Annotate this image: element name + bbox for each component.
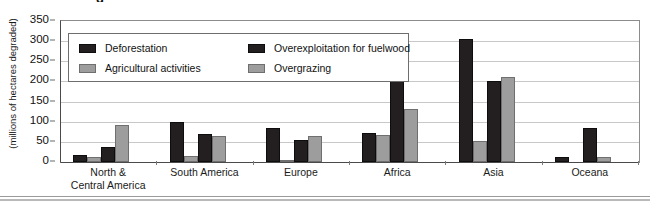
x-category-label-line: Oceana — [571, 166, 608, 179]
chart-legend: DeforestationAgricultural activitiesOver… — [68, 33, 409, 82]
legend-swatch-dark — [248, 44, 265, 53]
y-tick-label: 150 — [30, 95, 49, 107]
legend-item: Overgrazing — [248, 63, 331, 74]
x-category-label: South America — [170, 166, 238, 179]
y-tick-mark — [50, 140, 55, 141]
x-category-label-line: South America — [170, 166, 238, 179]
x-category-label: North &Central America — [71, 166, 146, 192]
legend-swatch-light — [248, 64, 265, 73]
page-rule-lower — [0, 199, 650, 201]
y-tick-label: 200 — [30, 75, 49, 87]
y-tick-label: 300 — [30, 34, 49, 46]
y-tick-label: 250 — [30, 55, 49, 67]
y-axis-ticks: 050100150200250300350 — [22, 14, 55, 161]
x-tick-mark — [638, 161, 639, 165]
legend-swatch-light — [79, 64, 96, 73]
page-rule-upper — [0, 196, 650, 197]
y-tick-label: 0 — [43, 155, 49, 167]
y-tick-mark — [50, 80, 55, 81]
x-tick-mark — [253, 161, 254, 165]
y-tick-mark — [50, 120, 55, 121]
legend-label: Overgrazing — [274, 63, 331, 74]
y-tick-mark — [50, 100, 55, 101]
x-category-label-line: Central America — [71, 179, 146, 192]
y-tick-label: 350 — [30, 14, 49, 26]
y-tick-mark — [50, 161, 55, 162]
bar-chart-figure: g (millions of hectares degraded) 050100… — [0, 0, 650, 207]
x-axis-category-labels: North &Central AmericaSouth AmericaEurop… — [60, 166, 638, 198]
y-tick-mark — [50, 60, 55, 61]
legend-item: Deforestation — [79, 43, 167, 54]
legend-label: Agricultural activities — [105, 63, 201, 74]
legend-item: Overexploitation for fuelwood — [248, 43, 410, 54]
legend-swatch-dark — [79, 44, 96, 53]
x-category-label-line: Asia — [483, 166, 503, 179]
x-tick-mark — [445, 161, 446, 165]
x-category-label: Asia — [483, 166, 503, 179]
legend-item: Agricultural activities — [79, 63, 201, 74]
legend-label: Deforestation — [105, 43, 167, 54]
x-category-label: Europe — [284, 166, 318, 179]
x-category-label-line: Africa — [384, 166, 411, 179]
y-axis-label: (millions of hectares degraded) — [7, 9, 18, 159]
x-tick-mark — [542, 161, 543, 165]
x-axis-baseline — [61, 162, 639, 163]
x-tick-mark — [156, 161, 157, 165]
clipped-title-fragment: g — [96, 0, 104, 2]
x-category-label: Africa — [384, 166, 411, 179]
y-tick-label: 50 — [36, 135, 49, 147]
x-category-label-line: Europe — [284, 166, 318, 179]
y-tick-mark — [50, 40, 55, 41]
legend-label: Overexploitation for fuelwood — [274, 43, 410, 54]
bar — [583, 128, 597, 162]
x-category-label: Oceana — [571, 166, 608, 179]
y-tick-mark — [50, 20, 55, 21]
y-tick-label: 100 — [30, 115, 49, 127]
x-tick-mark — [349, 161, 350, 165]
x-category-label-line: North & — [71, 166, 146, 179]
